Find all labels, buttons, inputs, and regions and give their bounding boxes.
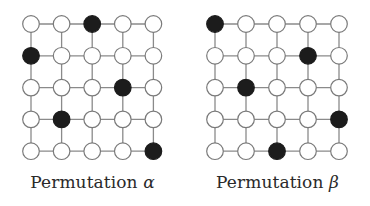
empty-node xyxy=(145,111,162,128)
empty-node xyxy=(23,111,40,128)
empty-node xyxy=(300,111,317,128)
caption-beta-text: Permutation xyxy=(216,172,323,192)
caption-beta-symbol: β xyxy=(329,172,339,192)
empty-node xyxy=(238,111,255,128)
empty-node xyxy=(207,111,224,128)
empty-node xyxy=(145,48,162,65)
empty-node xyxy=(53,48,70,65)
empty-node xyxy=(207,143,224,160)
filled-node xyxy=(115,79,132,96)
empty-node xyxy=(84,79,101,96)
panel-alpha: Permutation α xyxy=(0,0,185,206)
filled-node xyxy=(207,16,224,33)
empty-node xyxy=(331,48,348,65)
filled-node xyxy=(145,143,162,160)
filled-node xyxy=(331,111,348,128)
empty-node xyxy=(269,111,286,128)
grid-beta xyxy=(185,0,370,170)
empty-node xyxy=(84,143,101,160)
panel-beta: Permutation β xyxy=(185,0,370,206)
empty-node xyxy=(84,111,101,128)
empty-node xyxy=(145,79,162,96)
empty-node xyxy=(269,16,286,33)
empty-node xyxy=(23,16,40,33)
filled-node xyxy=(23,48,40,65)
empty-node xyxy=(331,143,348,160)
caption-alpha-text: Permutation xyxy=(30,172,137,192)
empty-node xyxy=(53,143,70,160)
caption-alpha-symbol: α xyxy=(143,172,155,192)
empty-node xyxy=(23,79,40,96)
empty-node xyxy=(238,143,255,160)
empty-node xyxy=(300,79,317,96)
empty-node xyxy=(84,48,101,65)
empty-node xyxy=(115,16,132,33)
filled-node xyxy=(269,143,286,160)
empty-node xyxy=(331,16,348,33)
empty-node xyxy=(115,48,132,65)
empty-node xyxy=(331,79,348,96)
caption-beta: Permutation β xyxy=(185,172,370,192)
empty-node xyxy=(238,16,255,33)
empty-node xyxy=(238,48,255,65)
empty-node xyxy=(300,16,317,33)
empty-node xyxy=(23,143,40,160)
empty-node xyxy=(145,16,162,33)
filled-node xyxy=(300,48,317,65)
empty-node xyxy=(115,143,132,160)
empty-node xyxy=(115,111,132,128)
empty-node xyxy=(53,79,70,96)
filled-node xyxy=(238,79,255,96)
empty-node xyxy=(269,48,286,65)
empty-node xyxy=(207,48,224,65)
filled-node xyxy=(84,16,101,33)
empty-node xyxy=(269,79,286,96)
grid-alpha xyxy=(0,0,185,170)
filled-node xyxy=(53,111,70,128)
empty-node xyxy=(53,16,70,33)
empty-node xyxy=(207,79,224,96)
caption-alpha: Permutation α xyxy=(0,172,185,192)
empty-node xyxy=(300,143,317,160)
